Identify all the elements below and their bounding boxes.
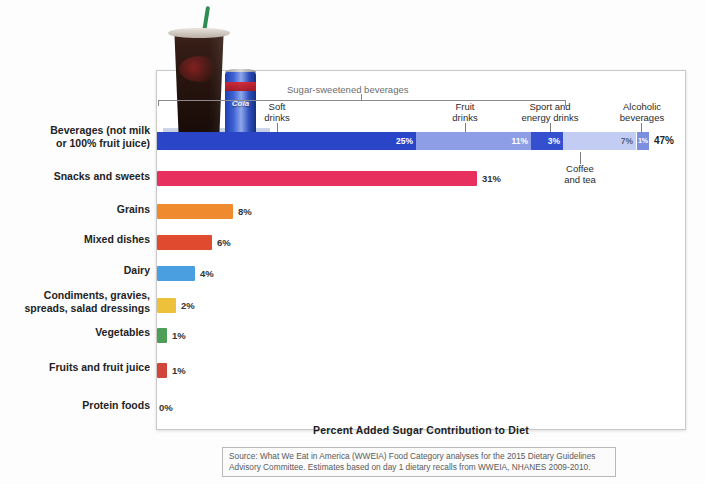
bar-mixed-dishes-value: 6% [217,235,231,250]
bar-vegetables[interactable] [157,328,167,343]
bar-protein-value: 0% [159,400,173,415]
source-note: Source: What We Eat in America (WWEIA) F… [222,447,616,477]
category-beverages-line2: or 100% fruit juice) [0,137,150,150]
chart-page: Cola Sugar-sweetened beverages Soft drin… [0,0,705,484]
segment-soft-drinks-value: 25% [396,132,413,150]
segment-sport-energy-drinks[interactable]: 3% [531,132,563,150]
bar-condiments-value: 2% [181,298,195,313]
category-label-grains: Grains [0,203,150,216]
bar-beverages-total: 47% [654,132,674,150]
segment-coffee-and-tea-value: 7% [621,132,633,150]
bar-snacks-value: 31% [482,171,501,186]
category-beverages-line1: Beverages (not milk [0,124,150,137]
cup-rim [168,28,230,38]
category-label-snacks: Snacks and sweets [0,170,150,183]
category-label-protein: Protein foods [0,399,150,412]
bar-series: 25% 11% 3% 7% 1% 47% 31% 8% 6% 4% [157,70,686,430]
segment-sport-energy-value: 3% [548,132,560,150]
bar-grains[interactable] [157,204,233,219]
category-label-mixed-dishes: Mixed dishes [0,233,150,246]
category-label-beverages: Beverages (not milk or 100% fruit juice) [0,124,150,149]
x-axis-title: Percent Added Sugar Contribution to Diet [156,424,686,436]
bar-condiments[interactable] [157,298,176,313]
bar-dairy-value: 4% [200,266,214,281]
category-label-condiments: Condiments, gravies, spreads, salad dres… [0,289,150,314]
photo-credit-wrap: Photo credit: Elf Ensor [686,318,705,428]
category-label-dairy: Dairy [0,264,150,277]
bar-snacks-and-sweets[interactable] [157,171,477,186]
source-line1: Source: What We Eat in America (WWEIA) F… [229,451,610,462]
source-line2: Advisory Committee. Estimates based on d… [229,462,610,473]
category-condiments-line1: Condiments, gravies, [0,289,150,302]
segment-coffee-and-tea[interactable]: 7% [563,132,636,150]
segment-alcoholic-value: 1% [638,132,648,150]
segment-soft-drinks[interactable]: 25% [157,132,416,150]
bar-vegetables-value: 1% [172,328,186,343]
bar-grains-value: 8% [238,204,252,219]
segment-alcoholic-beverages[interactable]: 1% [636,132,649,150]
bar-fruits-value: 1% [172,363,186,378]
category-label-fruits: Fruits and fruit juice [0,361,150,374]
segment-fruit-drinks[interactable]: 11% [416,132,531,150]
category-axis: Beverages (not milk or 100% fruit juice)… [0,70,150,430]
bar-beverages-stacked[interactable]: 25% 11% 3% 7% 1% 47% [157,132,657,150]
bar-mixed-dishes[interactable] [157,235,212,250]
segment-fruit-drinks-value: 11% [511,132,528,150]
bar-fruits[interactable] [157,363,167,378]
category-label-vegetables: Vegetables [0,326,150,339]
category-condiments-line2: spreads, salad dressings [0,302,150,315]
bar-dairy[interactable] [157,266,195,281]
